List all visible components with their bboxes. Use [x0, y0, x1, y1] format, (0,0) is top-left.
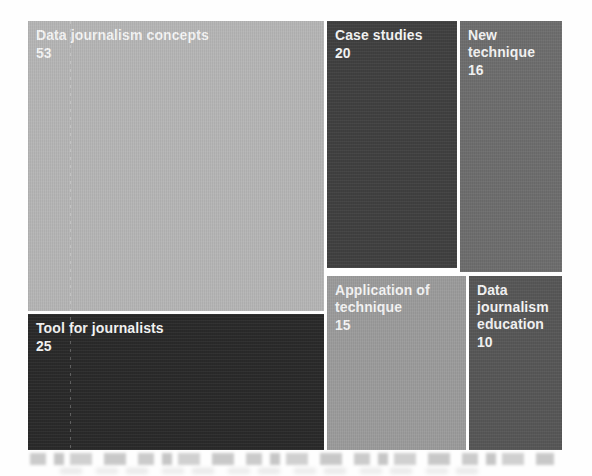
cell-value: 20: [335, 44, 449, 62]
treemap-cell-tool-for-journalists: Tool for journalists 25: [28, 314, 324, 450]
cell-value: 25: [36, 337, 316, 355]
bleed-through-artifact: [60, 468, 490, 474]
cell-value: 53: [36, 44, 316, 62]
bleed-through-artifact: [30, 453, 554, 465]
treemap-cell-new-technique: New technique 16: [460, 21, 562, 272]
cell-value: 10: [477, 333, 554, 351]
treemap-cell-data-journalism-education: Data journalism education 10: [469, 276, 562, 450]
cell-value: 15: [335, 316, 458, 334]
treemap-cell-case-studies: Case studies 20: [327, 21, 457, 268]
treemap-cell-application-of-technique: Application of technique 15: [327, 276, 466, 450]
cell-label: Case studies: [335, 27, 449, 44]
treemap-chart: Data journalism concepts 53 Tool for jou…: [28, 21, 562, 450]
cell-label: New technique: [468, 27, 554, 61]
cell-value: 16: [468, 61, 554, 79]
cell-label: Data journalism education: [477, 282, 554, 333]
cell-label: Data journalism concepts: [36, 27, 316, 44]
scanned-page: Data journalism concepts 53 Tool for jou…: [0, 0, 592, 476]
cell-label: Application of technique: [335, 282, 458, 316]
cell-label: Tool for journalists: [36, 320, 316, 337]
treemap-cell-data-journalism-concepts: Data journalism concepts 53: [28, 21, 324, 311]
